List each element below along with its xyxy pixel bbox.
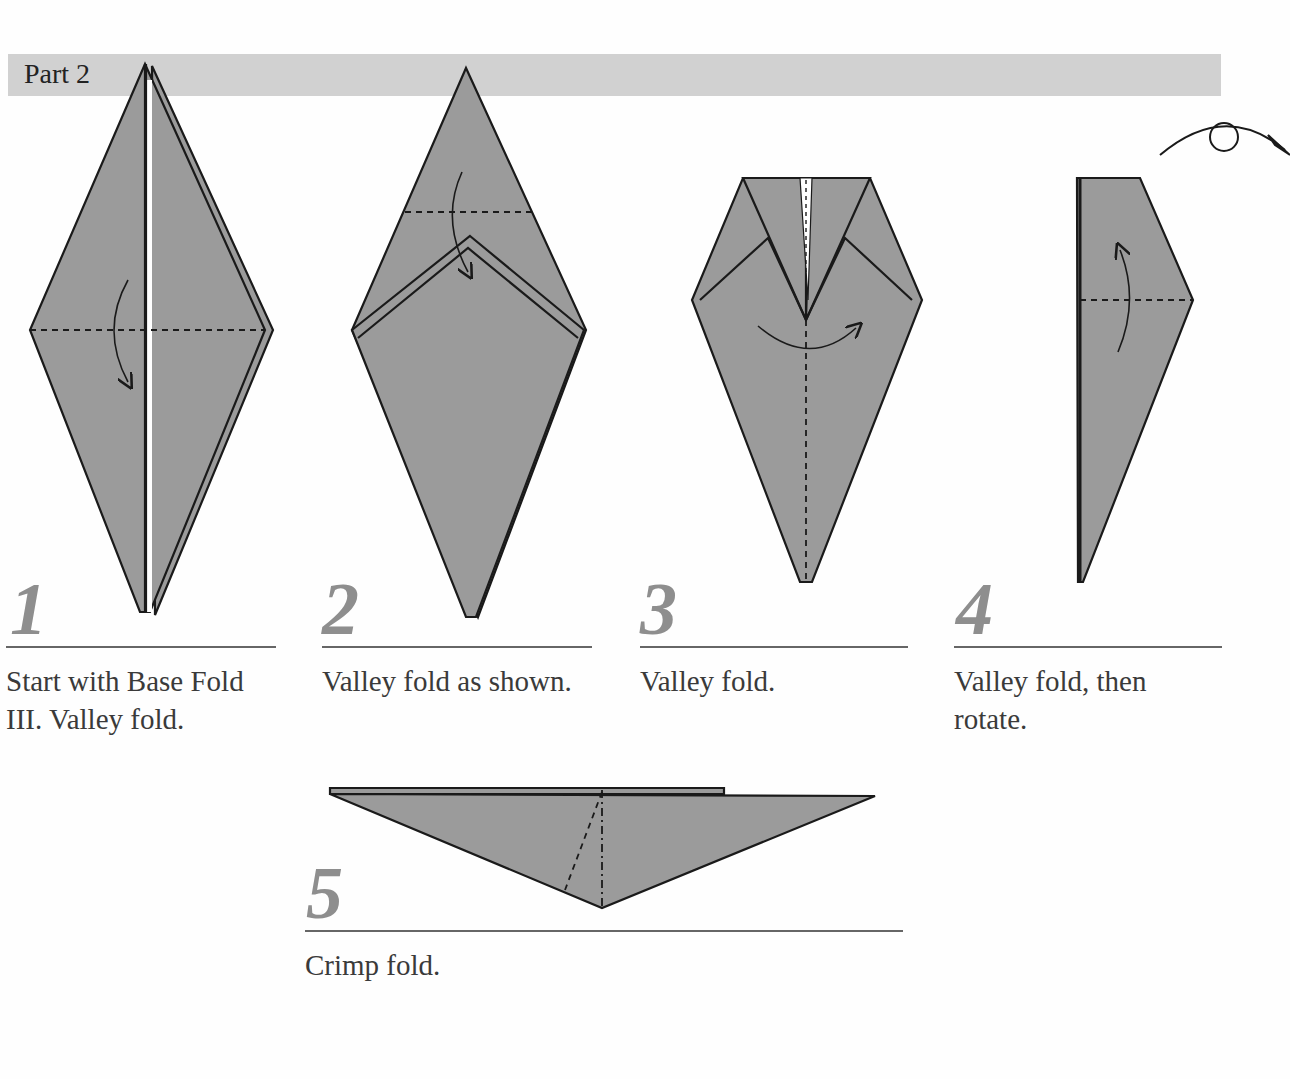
step-caption: Valley fold. [640, 662, 775, 700]
step-caption: Valley fold, then [954, 662, 1146, 700]
step4-diagram [1077, 123, 1290, 582]
step-caption: Crimp fold. [305, 946, 440, 984]
divider [640, 646, 908, 648]
divider [305, 930, 903, 932]
step-caption: rotate. [954, 700, 1146, 738]
step-number: 4 [956, 572, 993, 646]
step-caption: Start with Base Fold [6, 662, 244, 700]
step1-diagram [30, 64, 273, 615]
fold-diagrams [0, 0, 1290, 1079]
divider [322, 646, 592, 648]
divider [6, 646, 276, 648]
step-number: 1 [10, 572, 47, 646]
step2-diagram [352, 68, 586, 617]
step-number: 3 [640, 572, 677, 646]
step-number: 2 [322, 572, 359, 646]
rotate-arrow-icon [1160, 123, 1290, 155]
step-number: 5 [306, 856, 343, 930]
step3-diagram [692, 178, 922, 582]
step5-diagram [330, 788, 875, 908]
step-caption: III. Valley fold. [6, 700, 244, 738]
step-caption: Valley fold as shown. [322, 662, 572, 700]
divider [954, 646, 1222, 648]
